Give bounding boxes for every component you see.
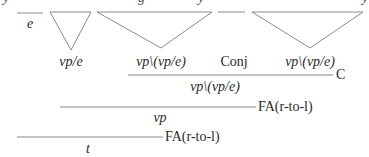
subtree-triangle: [252, 12, 363, 48]
leaf-label-e: e: [27, 17, 33, 31]
step-result-t: t: [86, 142, 90, 156]
cropped-text-fragment: y: [198, 0, 204, 5]
cropped-text-fragment: y: [362, 0, 368, 5]
step-rule-fa-2: FA(r-to-l): [165, 130, 220, 144]
leaf-label-vp-over-e: vp/e: [59, 55, 82, 69]
derivation-diagram: y g y y e vp/e vp\(vp/e) Conj vp\(vp/e) …: [0, 0, 369, 157]
subtree-triangle: [97, 12, 212, 48]
step-result-vp: vp: [153, 111, 166, 125]
step-rule-fa-1: FA(r-to-l): [258, 100, 313, 114]
step-rule-c: C: [336, 68, 345, 82]
leaf-label-vp-under-vp-over-e-2: vp\(vp/e): [285, 55, 335, 69]
subtree-triangle: [50, 12, 91, 50]
leaf-label-conj: Conj: [220, 55, 247, 69]
cropped-text-fragment: g: [138, 0, 145, 5]
cropped-text-fragment: y: [3, 0, 9, 5]
leaf-label-vp-under-vp-over-e: vp\(vp/e): [136, 55, 186, 69]
step-result-coordination: vp\(vp/e): [190, 80, 240, 94]
